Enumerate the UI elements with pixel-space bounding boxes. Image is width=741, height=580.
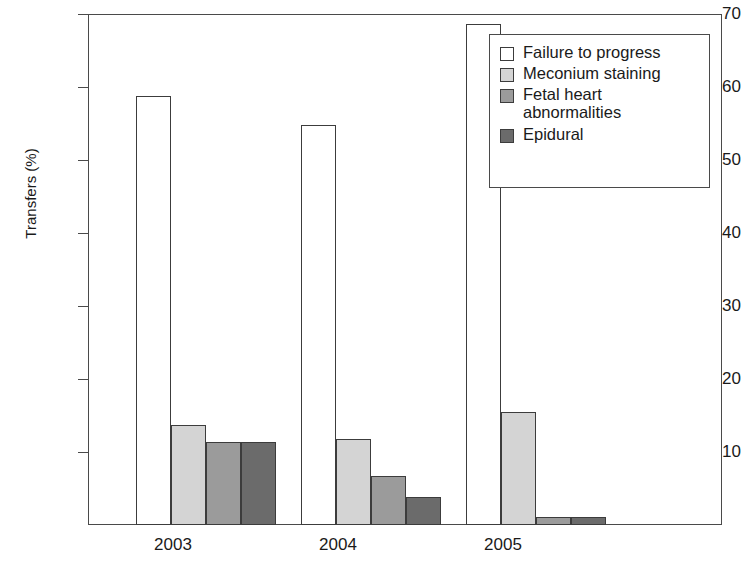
- legend-item-failure-to-progress: Failure to progress: [500, 43, 709, 61]
- legend-label: Epidural: [523, 125, 584, 143]
- bar-2004-fetal-heart-abnormalities: [371, 476, 406, 525]
- legend: Failure to progress Meconium staining Fe…: [489, 34, 710, 188]
- x-tick-label-2004: 2004: [283, 536, 393, 553]
- bar-2003-epidural: [241, 442, 276, 525]
- legend-swatch-icon: [500, 129, 514, 143]
- legend-item-epidural: Epidural: [500, 125, 709, 143]
- y-axis-title: Transfers (%): [22, 104, 39, 284]
- legend-swatch-icon: [500, 68, 514, 82]
- legend-label: Failure to progress: [523, 43, 661, 61]
- bar-2004-meconium-staining: [336, 439, 371, 525]
- legend-item-meconium-staining: Meconium staining: [500, 64, 709, 82]
- bar-2005-meconium-staining: [501, 412, 536, 525]
- legend-item-fetal-heart-abnormalities: Fetal heart abnormalities: [500, 85, 709, 121]
- x-tick-label-2005: 2005: [448, 536, 558, 553]
- bar-2005-epidural: [571, 517, 606, 525]
- x-tick-label-2003: 2003: [118, 536, 228, 553]
- bar-2003-failure-to-progress: [136, 96, 171, 525]
- legend-label: Meconium staining: [523, 64, 661, 82]
- bar-2005-fetal-heart-abnormalities: [536, 517, 571, 525]
- legend-label: Fetal heart abnormalities: [523, 85, 621, 121]
- bar-chart: Transfers (%) 70 60 50 40 30 20 10 2003 …: [0, 0, 741, 580]
- bar-2004-failure-to-progress: [301, 125, 336, 525]
- bar-2004-epidural: [406, 497, 441, 525]
- legend-swatch-icon: [500, 47, 514, 61]
- bar-2003-fetal-heart-abnormalities: [206, 442, 241, 525]
- legend-swatch-icon: [500, 89, 514, 103]
- bar-2003-meconium-staining: [171, 425, 206, 525]
